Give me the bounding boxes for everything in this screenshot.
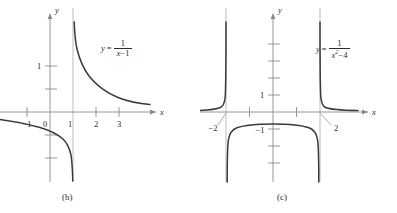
x-tick-label-c-neg2: −2 — [208, 123, 217, 133]
equation-label-b: y = 1 x−1 — [101, 39, 132, 58]
y-ticks-c — [268, 44, 280, 163]
equation-c-den-const: 4 — [343, 50, 347, 60]
equation-c-equals: = — [322, 44, 327, 54]
curve-b-left-branch — [0, 119, 73, 181]
x-axis-label-b: x — [159, 107, 164, 117]
equation-c-numerator: 1 — [334, 39, 344, 48]
equation-b-den-const: 1 — [125, 48, 129, 58]
y-tick-label-c-neg1: −1 — [255, 125, 264, 135]
equation-b-equals: = — [107, 43, 112, 53]
x-tick-label-b-1: 0 — [43, 119, 47, 129]
leader-line-x-neg2 — [218, 113, 226, 125]
equation-c-fraction: 1 x2−4 — [329, 39, 351, 60]
x-tick-label-b-0: −1 — [22, 119, 31, 129]
x-tick-label-b-3: 2 — [94, 119, 98, 129]
curve-b-right-branch — [74, 22, 150, 104]
graph-b-plot: −1 0 1 2 3 1 x y — [0, 0, 200, 190]
equation-b-lhs: y — [101, 43, 105, 53]
x-axis-label-c: x — [371, 107, 376, 117]
caption-panel-b: (b) — [62, 192, 73, 202]
equation-b-numerator: 1 — [118, 39, 128, 48]
x-tick-label-c-pos2: 2 — [334, 123, 338, 133]
equation-b-fraction: 1 x−1 — [114, 39, 133, 58]
equation-label-c: y = 1 x2−4 — [316, 39, 350, 60]
x-axis-arrow-b — [150, 110, 156, 115]
equation-c-lhs: y — [316, 44, 320, 54]
y-axis-label-c: y — [277, 5, 282, 15]
x-axis-arrow-c — [362, 110, 368, 115]
caption-panel-c: (c) — [277, 192, 287, 202]
curve-c-right-branch — [320, 22, 358, 111]
graph-c-plot: −2 2 1 −1 x y — [200, 0, 397, 190]
equation-c-denominator: x2−4 — [329, 48, 351, 60]
x-tick-label-b-2: 1 — [68, 119, 72, 129]
y-tick-label-b-0: 1 — [37, 61, 41, 71]
y-axis-arrow-c — [271, 13, 276, 19]
y-axis-label-b: y — [54, 5, 59, 15]
x-tick-label-b-4: 3 — [117, 119, 121, 129]
curve-c-left-branch — [200, 22, 226, 111]
equation-b-denominator: x−1 — [114, 48, 133, 58]
leader-line-x-pos2 — [320, 113, 331, 125]
y-axis-arrow-b — [48, 13, 53, 19]
figure-container: −1 0 1 2 3 1 x y y = 1 x−1 (b) — [0, 0, 397, 213]
y-tick-label-c-pos1: 1 — [260, 90, 264, 100]
